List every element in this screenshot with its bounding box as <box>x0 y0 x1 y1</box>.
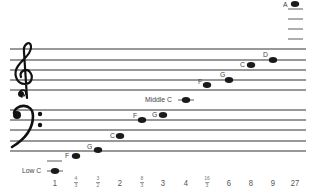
note-c4 <box>247 62 255 68</box>
ratio-27: 27 <box>291 178 300 188</box>
ratio-6: 6 <box>227 178 231 188</box>
ratio-1: 1 <box>53 178 57 188</box>
note-middle-c <box>182 97 190 103</box>
note-d4 <box>269 57 277 63</box>
ratio-2: 2 <box>118 178 122 188</box>
note-g1 <box>94 147 102 153</box>
high-ledger-lines <box>288 9 303 39</box>
ratio-numerator: 8 <box>141 176 144 181</box>
note-g2 <box>159 112 167 118</box>
note-label-g3: G <box>220 71 225 79</box>
note-label-d4: D <box>263 51 268 59</box>
note-label-middle-c: Middle C <box>145 96 172 104</box>
note-label-g2: G <box>152 111 157 119</box>
ratio-denominator: 3 <box>206 183 209 188</box>
note-label-f2: F <box>133 112 137 120</box>
note-label-c4: C <box>240 61 245 69</box>
note-label-a5: A <box>283 1 288 9</box>
note-label-low-c: Low C <box>22 167 41 175</box>
ratio-numerator: 4 <box>75 176 78 181</box>
note-f1 <box>72 153 80 159</box>
ratio-9: 9 <box>271 178 275 188</box>
note-label-f3: F <box>198 78 202 86</box>
note-f3 <box>203 82 211 88</box>
note-g3 <box>225 77 233 83</box>
note-label-g1: G <box>87 143 92 151</box>
ratio-denominator: 3 <box>75 183 78 188</box>
ratio-4: 4 <box>184 178 188 188</box>
harmonic-staff-diagram: Low C F G C F G Middle C F G C D A 1 43 … <box>0 0 320 195</box>
ratio-8: 8 <box>249 178 253 188</box>
ratio-numerator: 16 <box>204 176 210 181</box>
bass-staff <box>10 110 306 151</box>
note-a5 <box>291 1 299 7</box>
note-f2 <box>138 117 146 123</box>
note-low-c <box>51 168 59 174</box>
ratio-16-3: 163 <box>204 176 210 188</box>
ratio-denominator: 2 <box>97 183 100 188</box>
ratio-4-3: 43 <box>74 176 78 188</box>
ratio-denominator: 3 <box>141 183 144 188</box>
ratio-3: 3 <box>161 178 165 188</box>
treble-staff <box>10 49 306 90</box>
note-c2 <box>116 133 124 139</box>
ratio-8-3: 83 <box>140 176 144 188</box>
ratio-3-2: 32 <box>96 176 100 188</box>
note-label-f1: F <box>65 152 69 160</box>
note-label-c2: C <box>110 132 115 140</box>
ratio-numerator: 3 <box>97 176 100 181</box>
